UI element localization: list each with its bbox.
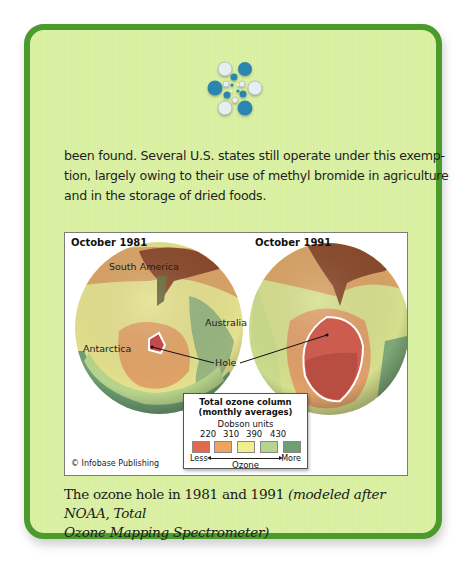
double-arrow-icon <box>210 458 280 459</box>
legend-swatch-390 <box>237 441 255 453</box>
legend-units: Dobson units <box>184 419 307 429</box>
body-line: been found. Several U.S. states still op… <box>64 146 404 166</box>
ozone-figure: October 1981 October 1991 South America … <box>64 232 408 476</box>
figure-caption: The ozone hole in 1981 and 1991 (modeled… <box>64 485 414 542</box>
ozone-legend: Total ozone column (monthly averages) Do… <box>183 393 308 469</box>
legend-swatch-220 <box>192 441 210 453</box>
legend-title: Total ozone column (monthly averages) <box>184 397 307 417</box>
legend-swatch-high <box>283 441 301 453</box>
legend-axis-label: Ozone <box>184 460 307 470</box>
decorative-dot-logo-icon <box>201 54 269 122</box>
label-hole: Hole <box>215 357 236 368</box>
legend-swatch-430 <box>260 441 278 453</box>
body-line: and in the storage of dried foods. <box>64 186 404 206</box>
legend-swatch-310 <box>214 441 232 453</box>
copyright-credit: © Infobase Publishing <box>71 459 159 468</box>
body-line: tion, largely owing to their use of meth… <box>64 166 404 186</box>
body-paragraph: been found. Several U.S. states still op… <box>64 146 404 206</box>
caption-source-line2: Ozone Mapping Spectrometer) <box>64 524 269 540</box>
caption-main: The ozone hole in 1981 and 1991 <box>64 486 288 502</box>
